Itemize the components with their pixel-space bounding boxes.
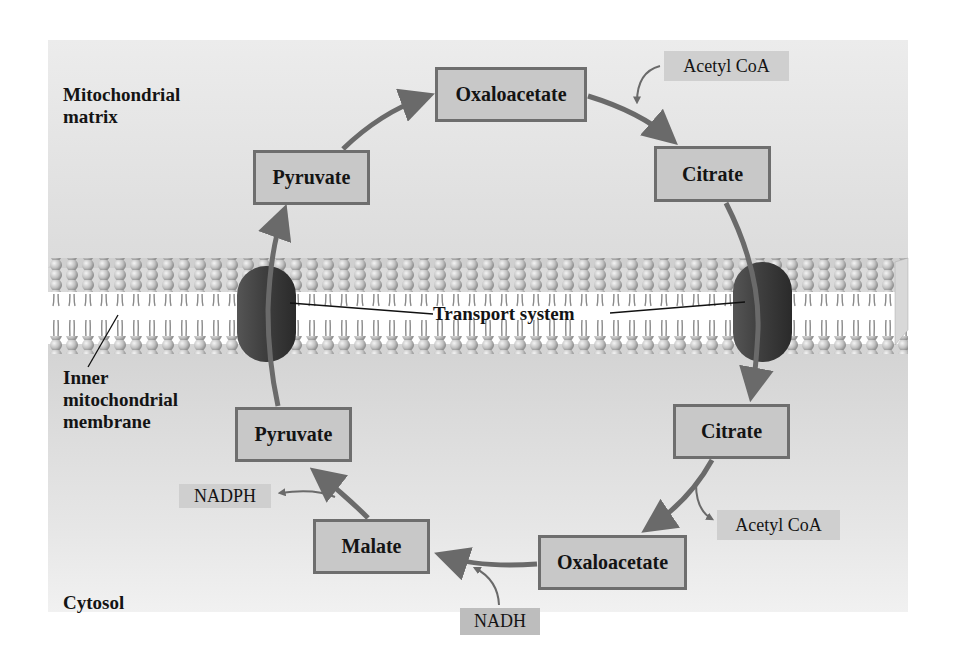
oxaloacetate-cytosol-node: Oxaloacetate bbox=[538, 535, 687, 590]
citrate-shuttle-diagram: Mitochondrial matrix Inner mitochondrial… bbox=[0, 0, 956, 668]
membrane-label-line3: membrane bbox=[63, 411, 178, 433]
membrane-label-line2: mitochondrial bbox=[63, 389, 178, 411]
matrix-label-line1: Mitochondrial bbox=[63, 84, 180, 106]
citrate-cytosol-node: Citrate bbox=[673, 404, 790, 459]
mitochondrial-matrix-label: Mitochondrial matrix bbox=[63, 84, 180, 128]
right-transport-protein bbox=[733, 262, 792, 362]
nadh-input-tag: NADH bbox=[460, 608, 540, 635]
cytosol-label: Cytosol bbox=[63, 592, 124, 614]
pyruvate-cytosol-node: Pyruvate bbox=[235, 407, 352, 462]
malate-cytosol-node: Malate bbox=[313, 519, 430, 574]
transport-system-label: Transport system bbox=[433, 303, 575, 325]
citrate-matrix-node: Citrate bbox=[654, 146, 771, 202]
nadph-output-tag: NADPH bbox=[179, 484, 271, 508]
oxaloacetate-matrix-node: Oxaloacetate bbox=[435, 67, 587, 122]
pyruvate-matrix-node: Pyruvate bbox=[253, 150, 370, 205]
acetyl-coa-output-tag: Acetyl CoA bbox=[717, 510, 840, 540]
matrix-label-line2: matrix bbox=[63, 106, 180, 128]
membrane-label-line1: Inner bbox=[63, 367, 178, 389]
acetyl-coa-input-tag: Acetyl CoA bbox=[664, 51, 789, 81]
inner-membrane-label: Inner mitochondrial membrane bbox=[63, 367, 178, 433]
